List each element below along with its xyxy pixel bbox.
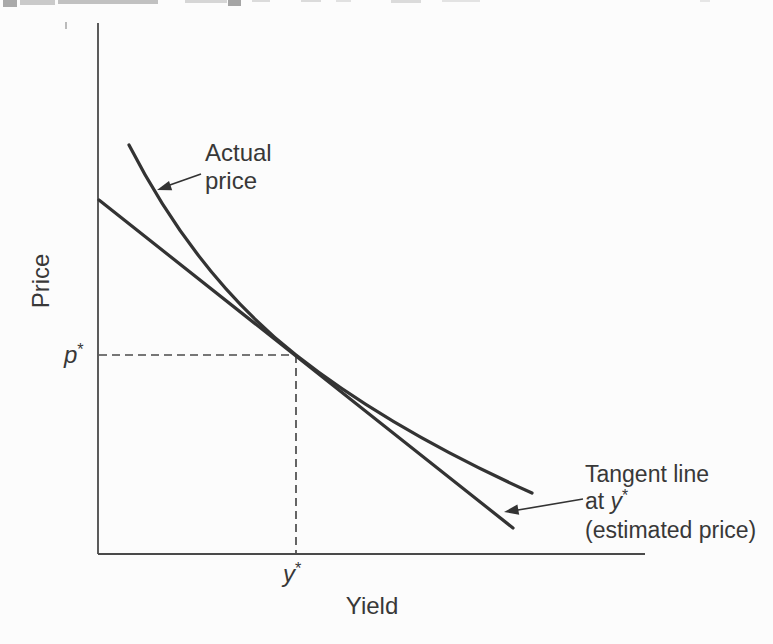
actual-price-curve <box>129 145 532 493</box>
tangent-arrowhead <box>504 505 519 515</box>
tangent-annotation-line1: Tangent line <box>585 461 756 488</box>
actual-price-annotation-line2: price <box>205 167 272 195</box>
y-star-label: y* <box>283 560 301 589</box>
tangent-annotation-line3: (estimated price) <box>585 517 756 544</box>
actual-price-annotation: Actual price <box>205 139 272 195</box>
tangent-annotation: Tangent line at y* (estimated price) <box>585 461 756 544</box>
y-star-sup: * <box>295 558 301 576</box>
p-star-label: p* <box>64 341 84 370</box>
scan-artifact-top-edge <box>3 0 710 29</box>
tangent-annotation-y-star: * <box>622 487 628 504</box>
plot-graphics <box>0 0 773 644</box>
tangent-annotation-line2: at y* <box>585 488 756 517</box>
p-star-base: p <box>64 341 77 368</box>
x-axis-title: Yield <box>346 592 398 621</box>
actual-price-arrowhead <box>157 181 172 190</box>
actual-price-arrow <box>157 174 201 190</box>
y-star-base: y <box>283 560 295 587</box>
y-axis-title: Price <box>27 254 56 309</box>
tangent-annotation-at: at <box>585 488 611 514</box>
actual-price-annotation-line1: Actual <box>205 139 272 167</box>
figure-canvas: Price Yield Actual price Tangent line at… <box>0 0 773 644</box>
p-star-sup: * <box>77 339 83 357</box>
tangent-annotation-y-var: y <box>611 488 623 514</box>
tangent-arrow <box>504 499 583 515</box>
